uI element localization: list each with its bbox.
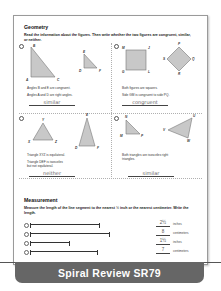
vertical-divider — [111, 43, 112, 177]
answer-field[interactable]: 2½ — [156, 220, 170, 227]
geometry-heading: Geometry — [24, 24, 48, 30]
vertex-label: S — [163, 57, 165, 61]
vertex-label: M — [122, 46, 125, 50]
problem-number-icon — [24, 223, 29, 228]
vertex-label: U — [193, 114, 195, 118]
measurement-item-6: 8 centimeters — [24, 230, 204, 238]
horizontal-divider — [19, 178, 202, 179]
answer-field[interactable]: 1½ — [156, 238, 170, 245]
line-segment — [30, 224, 100, 225]
worksheet-box: Geometry Read the information about the … — [13, 15, 208, 265]
answer-field[interactable]: similar — [29, 99, 75, 106]
unit-label: centimeters — [173, 249, 189, 253]
square-figures — [114, 44, 204, 84]
vertex-label: Y — [42, 118, 44, 122]
answer-field[interactable]: neither — [29, 170, 75, 177]
problem-2: M J G L P S Q R Both figures are squares… — [114, 44, 206, 112]
problem-statement: Both figures are squares. — [122, 86, 202, 90]
line-segment — [30, 242, 70, 243]
answer-field[interactable]: 7 — [156, 247, 170, 254]
line-segment — [30, 233, 110, 234]
vertex-label: J — [148, 46, 150, 50]
vertex-label: R — [178, 72, 180, 76]
vertex-label: V — [163, 128, 165, 132]
vertex-label: D — [79, 69, 81, 73]
worksheet-page: Geometry Read the information about the … — [0, 0, 221, 291]
right-triangle-figures — [19, 44, 109, 84]
vertex-label: D — [75, 146, 77, 150]
unit-label: inches — [173, 222, 182, 226]
vertex-label: Z — [55, 140, 57, 144]
vertex-label: L — [148, 70, 150, 74]
footer-title: Spiral Review SR79 — [58, 267, 161, 279]
unit-label: inches — [173, 240, 182, 244]
isosceles-right-triangle-figures — [114, 116, 204, 156]
unit-label: centimeters — [173, 231, 189, 235]
measurement-item-7: 1½ inches — [24, 239, 204, 247]
vertex-label: E — [86, 113, 88, 117]
problem-statement: Triangle DEF is isosceles but not equila… — [27, 160, 67, 168]
vertex-label: C — [57, 78, 59, 82]
vertex-label: X — [28, 140, 30, 144]
vertex-label: E — [83, 50, 85, 54]
problem-number-icon — [24, 241, 29, 246]
measurement-heading: Measurement — [24, 197, 57, 203]
vertex-label: Q — [192, 57, 194, 61]
problem-1: B A C E D F Angles B and E are congruent… — [19, 44, 111, 112]
triangle-figures — [19, 116, 109, 156]
answer-field[interactable]: congruent — [122, 99, 168, 106]
problem-4: N M P U V W Both triangles are isosceles… — [114, 116, 206, 178]
answer-field[interactable]: 8 — [156, 229, 170, 236]
vertex-label: M — [120, 134, 123, 138]
problem-statement: Triangle XYZ is equilateral. — [27, 153, 107, 157]
line-segment — [30, 251, 98, 252]
vertex-label: P — [178, 42, 180, 46]
footer-banner: Spiral Review SR79 — [15, 262, 204, 283]
problem-statement: Side GM is congruent to side PQ. — [122, 93, 202, 97]
horizontal-divider — [19, 113, 202, 114]
vertex-label: N — [125, 115, 127, 119]
vertex-label: A — [26, 78, 28, 82]
vertex-label: P — [141, 134, 143, 138]
vertex-label: F — [99, 69, 101, 73]
measurement-instructions: Measure the length of the line segment t… — [24, 206, 194, 215]
measurement-item-8: 7 centimeters — [24, 248, 204, 256]
vertex-label: F — [97, 146, 99, 150]
geometry-instructions: Read the information about the figures. … — [24, 33, 194, 42]
problem-number-icon — [24, 250, 29, 255]
problem-3: Y X Z E D F Triangle XYZ is equilateral.… — [19, 116, 111, 178]
vertex-label: B — [33, 44, 35, 48]
measurement-item-5: 2½ inches — [24, 221, 204, 229]
problem-statement: Both triangles are isosceles right trian… — [122, 153, 172, 161]
vertex-label: W — [187, 139, 190, 143]
problem-statement: Angles A and D are right angles. — [27, 93, 107, 97]
problem-statement: Angles B and E are congruent. — [27, 86, 107, 90]
answer-field[interactable]: similar — [128, 170, 174, 177]
problem-number-icon — [24, 232, 29, 237]
vertex-label: G — [122, 70, 124, 74]
